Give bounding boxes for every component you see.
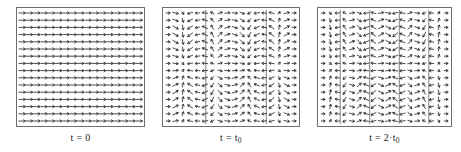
panel-caption-t0: t = 0	[71, 132, 91, 144]
caption-sub-t-t0: 0	[238, 136, 242, 145]
plot-frame-t-t0	[162, 7, 300, 127]
plot-frame-t-2t0	[317, 7, 452, 127]
caption-prefix-t0: t =	[71, 132, 86, 143]
caption-value-t-2t0: 2·t	[384, 132, 396, 143]
quiver-plot-t0	[17, 8, 144, 126]
panel-group-t-t0: t = t0	[162, 7, 300, 144]
caption-value-t0: 0	[85, 132, 90, 143]
panel-group-t0: t = 0	[16, 7, 145, 144]
quiver-plot-t-2t0	[318, 8, 451, 126]
panel-caption-t-2t0: t = 2·t0	[369, 132, 400, 144]
caption-prefix-t-t0: t =	[220, 132, 235, 143]
panel-group-t-2t0: t = 2·t0	[317, 7, 452, 144]
panel-caption-t-t0: t = t0	[220, 132, 242, 144]
caption-prefix-t-2t0: t =	[369, 132, 384, 143]
caption-sub-t-2t0: 0	[396, 136, 400, 145]
plot-frame-t0	[16, 7, 145, 127]
quiver-plot-t-t0	[163, 8, 299, 126]
vector-field-figure: t = 0 t = t0 t = 2·t0	[0, 0, 461, 152]
